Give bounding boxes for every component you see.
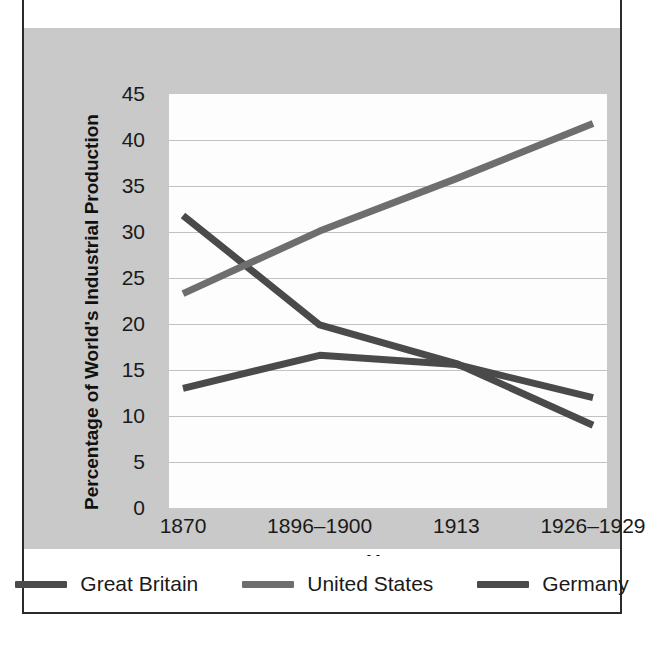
legend-item-label: Germany bbox=[542, 572, 628, 596]
chart-background-band: 051015202530354045 18701896–190019131926… bbox=[24, 28, 620, 549]
legend-swatch-icon bbox=[477, 581, 529, 588]
legend-item[interactable]: Great Britain bbox=[15, 572, 198, 596]
legend-swatch-icon bbox=[15, 581, 67, 588]
legend-item-label: United States bbox=[307, 572, 433, 596]
plot-area bbox=[169, 94, 607, 508]
chart-legend: Great BritainUnited StatesGermany bbox=[24, 556, 620, 612]
series-lines-group bbox=[169, 94, 607, 508]
x-axis-tick-label: 1926–1929 bbox=[503, 515, 653, 536]
legend-item[interactable]: Germany bbox=[477, 572, 628, 596]
legend-item[interactable]: United States bbox=[242, 572, 433, 596]
legend-swatch-icon bbox=[242, 581, 294, 588]
series-line bbox=[183, 355, 593, 397]
figure-canvas: 051015202530354045 18701896–190019131926… bbox=[0, 0, 653, 654]
series-line bbox=[183, 123, 593, 293]
series-line bbox=[183, 215, 593, 425]
legend-item-label: Great Britain bbox=[80, 572, 198, 596]
y-axis-title: Percentage of World's Industrial Product… bbox=[81, 102, 103, 522]
y-axis-tick-label: 45 bbox=[85, 83, 145, 104]
